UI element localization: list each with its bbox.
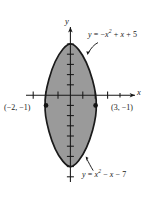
- x-axis-label: x: [137, 88, 141, 97]
- parabola-region-figure: y x y = −x2 + x + 5 y = x2 − x − 7 (−2, …: [0, 0, 164, 198]
- intersection-left-label: (−2, −1): [4, 104, 30, 112]
- lower-parabola-equation-label: y = x2 − x − 7: [82, 171, 126, 179]
- intersection-point-right: [93, 103, 98, 108]
- y-axis-label: y: [65, 17, 69, 26]
- intersection-point-left: [44, 103, 49, 108]
- upper-parabola-equation-label: y = −x2 + x + 5: [88, 31, 137, 39]
- lower-label-leader-arrow: [86, 157, 94, 171]
- upper-label-leader-arrow: [86, 43, 98, 55]
- plot-canvas: [0, 0, 164, 198]
- intersection-right-label: (3, −1): [111, 104, 133, 112]
